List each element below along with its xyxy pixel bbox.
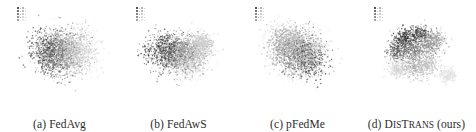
legend-c: 0123456789 bbox=[255, 7, 264, 21]
legend-swatch-icon bbox=[255, 19, 257, 21]
legend-swatch-icon bbox=[22, 19, 24, 21]
caption-method-name: DISTRANS bbox=[385, 118, 435, 130]
caption-index: (d) bbox=[368, 118, 382, 130]
caption-index: (a) bbox=[33, 118, 46, 130]
legend-d: 0123456789 bbox=[374, 7, 383, 21]
legend-label: 9 bbox=[263, 19, 264, 21]
legend-entry[interactable]: 9 bbox=[22, 19, 26, 21]
panel-d: 0123456789(d) DISTRANS (ours) bbox=[357, 0, 476, 132]
caption-suffix: (ours) bbox=[437, 118, 465, 130]
caption-index: (b) bbox=[150, 118, 164, 130]
panel-caption-c: (c) pFedMe bbox=[238, 118, 357, 130]
caption-method-name: FedAvg bbox=[49, 118, 86, 130]
legend-entry[interactable]: 4 bbox=[255, 19, 259, 21]
legend-a: 0123456789 bbox=[17, 7, 26, 21]
caption-method-name: pFedMe bbox=[286, 118, 325, 130]
legend-label: 9 bbox=[382, 19, 383, 21]
legend-entry[interactable]: 9 bbox=[379, 19, 383, 21]
legend-label: 9 bbox=[144, 19, 145, 21]
panel-caption-a: (a) FedAvg bbox=[0, 118, 119, 130]
legend-label: 4 bbox=[258, 19, 259, 21]
caption-index: (c) bbox=[270, 118, 283, 130]
legend-b: 0123456789 bbox=[136, 7, 145, 21]
legend-swatch-icon bbox=[136, 19, 138, 21]
legend-entry[interactable]: 9 bbox=[141, 19, 145, 21]
caption-method-name: FedAwS bbox=[167, 118, 207, 130]
legend-swatch-icon bbox=[374, 19, 376, 21]
legend-swatch-icon bbox=[379, 19, 381, 21]
panel-c: 0123456789(c) pFedMe bbox=[238, 0, 357, 132]
legend-label: 9 bbox=[25, 19, 26, 21]
legend-entry[interactable]: 4 bbox=[17, 19, 21, 21]
tsne-comparison-figure: 0123456789(a) FedAvg0123456789(b) FedAwS… bbox=[0, 0, 476, 132]
legend-label: 4 bbox=[139, 19, 140, 21]
legend-label: 4 bbox=[20, 19, 21, 21]
legend-swatch-icon bbox=[141, 19, 143, 21]
legend-swatch-icon bbox=[17, 19, 19, 21]
panel-b: 0123456789(b) FedAwS bbox=[119, 0, 238, 132]
panel-caption-b: (b) FedAwS bbox=[119, 118, 238, 130]
panel-a: 0123456789(a) FedAvg bbox=[0, 0, 119, 132]
legend-entry[interactable]: 9 bbox=[260, 19, 264, 21]
legend-label: 4 bbox=[377, 19, 378, 21]
legend-entry[interactable]: 4 bbox=[136, 19, 140, 21]
legend-entry[interactable]: 4 bbox=[374, 19, 378, 21]
legend-swatch-icon bbox=[260, 19, 262, 21]
panel-caption-d: (d) DISTRANS (ours) bbox=[357, 118, 476, 130]
